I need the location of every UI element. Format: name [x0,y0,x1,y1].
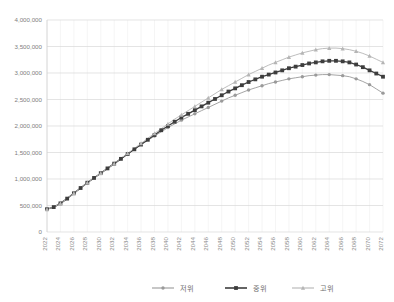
y-tick-label: 500,000 [20,202,43,209]
series-marker [374,72,378,76]
x-tick-label: 2060 [296,236,303,250]
series-marker [274,80,277,83]
series-marker [79,186,83,190]
series-marker [260,84,263,87]
population-projection-chart: 0500,0001,000,0001,500,0002,000,0002,500… [0,0,394,302]
series-marker [159,128,163,132]
series-marker [200,104,204,108]
x-tick-label: 2052 [243,236,250,250]
x-tick-label: 2056 [269,236,276,250]
series-marker [361,65,365,69]
legend-label: 고위 [320,284,334,293]
y-tick-label: 3,500,000 [14,43,42,50]
x-tick-label: 2026 [68,236,75,250]
series-marker [193,108,197,112]
series-marker [132,147,136,151]
series-marker [193,112,196,115]
series-marker [287,77,290,80]
legend-label: 저위 [180,284,194,293]
series-marker [52,205,56,209]
x-tick-label: 2064 [323,236,330,250]
legend-marker-circle [161,286,164,289]
x-tick-label: 2048 [216,236,223,250]
x-tick-label: 2034 [122,236,129,250]
x-tick-label: 2070 [364,236,371,250]
series-marker [227,90,231,94]
series-marker [119,157,123,161]
x-tick-label: 2024 [54,236,61,250]
series-marker [368,83,371,86]
x-tick-label: 2028 [81,236,88,250]
series-marker [328,73,331,76]
series-marker [300,63,304,67]
series-marker [247,80,251,84]
series-marker [206,101,210,105]
series-marker [274,71,278,75]
x-tick-label: 2022 [41,236,48,250]
series-marker [220,99,223,102]
series-marker [220,93,224,97]
x-tick-label: 2046 [202,236,209,250]
legend-label: 중위 [253,284,267,293]
series-marker [314,73,317,76]
legend-marker-square [234,286,238,290]
y-tick-label: 1,000,000 [14,175,42,182]
series-marker [65,197,69,201]
x-tick-label: 2042 [175,236,182,250]
series-marker [354,77,357,80]
series-marker [240,83,244,87]
y-tick-label: 4,000,000 [14,16,42,23]
series-marker [301,75,304,78]
series-marker [213,97,217,101]
x-tick-label: 2068 [350,236,357,250]
series-marker [92,176,96,180]
x-tick-label: 2058 [283,236,290,250]
series-marker [280,68,284,72]
series-marker [341,74,344,77]
series-marker [348,61,352,65]
series-marker [287,66,291,70]
series-marker [267,73,271,77]
x-tick-label: 2054 [256,236,263,250]
series-marker [354,63,358,67]
series-marker [381,91,384,94]
y-tick-label: 2,500,000 [14,96,42,103]
x-tick-label: 2032 [108,236,115,250]
series-marker [173,120,177,124]
series-marker [233,94,236,97]
y-tick-label: 3,000,000 [14,69,42,76]
series-marker [314,61,318,65]
series-marker [321,59,325,63]
series-marker [106,167,110,171]
series-marker [186,112,190,116]
series-marker [341,59,345,63]
x-tick-label: 2072 [377,236,384,250]
x-tick-label: 2038 [149,236,156,250]
series-marker [207,106,210,109]
y-axis-tick-labels: 0500,0001,000,0001,500,0002,000,0002,500… [14,16,42,235]
series-marker [307,62,311,66]
series-marker [381,75,385,79]
x-tick-label: 2062 [310,236,317,250]
x-tick-label: 2030 [95,236,102,250]
x-tick-label: 2050 [229,236,236,250]
series-marker [146,138,150,142]
series-marker [327,59,331,63]
y-tick-label: 1,500,000 [14,149,42,156]
y-tick-label: 2,000,000 [14,122,42,129]
series-marker [247,88,250,91]
y-tick-label: 0 [39,228,43,235]
chart-canvas: 0500,0001,000,0001,500,0002,000,0002,500… [0,0,394,302]
chart-background [0,0,394,302]
series-marker [233,86,237,90]
x-tick-label: 2044 [189,236,196,250]
series-marker [334,59,338,63]
x-tick-label: 2066 [337,236,344,250]
series-marker [368,68,372,72]
x-tick-label: 2036 [135,236,142,250]
series-marker [294,65,298,69]
x-tick-label: 2040 [162,236,169,250]
series-marker [260,75,264,79]
series-marker [253,77,257,81]
